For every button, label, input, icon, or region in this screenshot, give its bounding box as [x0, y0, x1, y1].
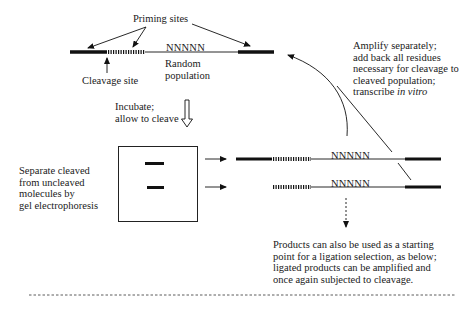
incubate-down-arrow-icon: [182, 100, 193, 127]
gel-box: [118, 146, 198, 222]
priming-sites-label: Priming sites: [133, 13, 188, 25]
random-region-sequence: NNNNN: [166, 42, 205, 53]
products-note: Products can also be used as a starting …: [273, 239, 437, 285]
amplify-return-arrow-icon: [288, 55, 347, 136]
cleaved-random-sequence: NNNNN: [331, 178, 370, 189]
selection-cycle-diagram: Priming sites Cleavage site NNNNN Random…: [0, 0, 467, 316]
amplify-connector-line-lower: [398, 163, 411, 180]
gel-band-upper: [145, 162, 164, 165]
arrow-to-hatched: [133, 27, 146, 47]
gel-separation-label: Separate cleaved from uncleaved molecule…: [19, 165, 98, 211]
random-population-label: Random population: [165, 58, 210, 81]
incubate-label: Incubate; allow to cleave: [115, 101, 179, 124]
arrow-to-left-primer: [88, 27, 146, 48]
amplify-label: Amplify separately; add back all residue…: [353, 40, 459, 98]
uncleaved-random-sequence: NNNNN: [331, 150, 370, 161]
cleavage-site-label: Cleavage site: [82, 75, 138, 87]
gel-band-lower: [147, 186, 164, 189]
